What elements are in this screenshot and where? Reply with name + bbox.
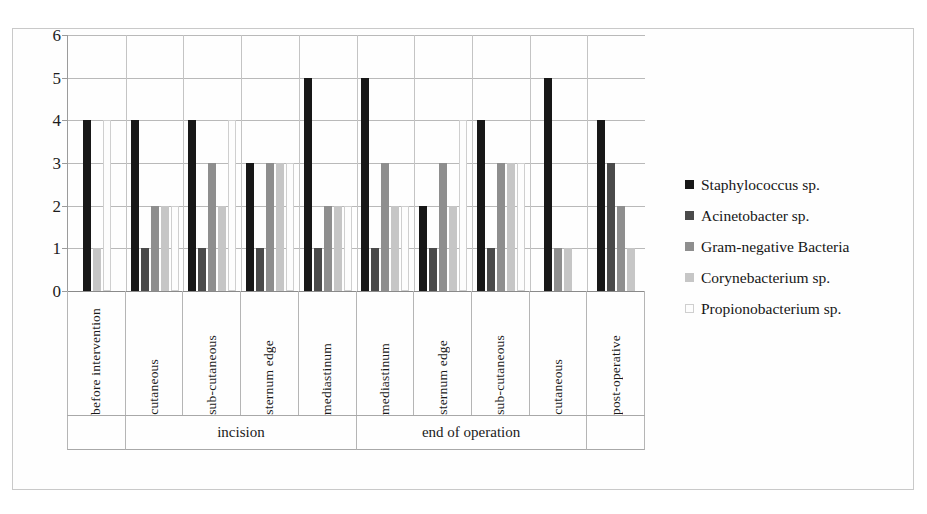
bar xyxy=(361,78,369,291)
bar xyxy=(266,163,274,291)
bar xyxy=(304,78,312,291)
legend-item: Corynebacterium sp. xyxy=(685,262,913,293)
bar xyxy=(477,120,485,291)
category-cell: sub-cutaneous xyxy=(182,291,240,415)
legend-swatch-icon xyxy=(685,273,694,282)
category-label: cutaneous xyxy=(550,356,566,415)
group-axis: incisionend of operation xyxy=(67,416,645,450)
group-label: end of operation xyxy=(422,424,520,441)
category-axis: before interventioncutaneoussub-cutaneou… xyxy=(67,291,645,416)
bar xyxy=(597,120,605,291)
legend: Staphylococcus sp.Acinetobacter sp.Gram-… xyxy=(685,169,913,324)
bar xyxy=(554,248,562,291)
bar xyxy=(218,206,226,291)
bar-group xyxy=(414,35,472,291)
bar xyxy=(334,206,342,291)
bar xyxy=(617,206,625,291)
category-cell: cutaneous xyxy=(125,291,183,415)
category-cell: sternum edge xyxy=(413,291,471,415)
legend-item: Propionobacterium sp. xyxy=(685,293,913,324)
bar xyxy=(276,163,284,291)
bar-group xyxy=(126,35,184,291)
bar xyxy=(627,248,635,291)
y-tick-label: 6 xyxy=(53,27,62,44)
category-label: mediastinum xyxy=(377,340,393,415)
bar xyxy=(208,163,216,291)
bar xyxy=(449,206,457,291)
bar xyxy=(198,248,206,291)
bar xyxy=(381,163,389,291)
legend-swatch-icon xyxy=(685,180,694,189)
category-label: sub-cutaneous xyxy=(204,332,220,415)
y-tick-label: 4 xyxy=(53,112,62,129)
bar xyxy=(371,248,379,291)
group-label-cell xyxy=(67,416,125,450)
plot-canvas xyxy=(67,35,645,291)
bar-group xyxy=(587,35,645,291)
bar xyxy=(314,248,322,291)
bar-group xyxy=(241,35,299,291)
bar xyxy=(439,163,447,291)
bar xyxy=(344,206,352,291)
legend-swatch-icon xyxy=(685,304,694,313)
category-label: before intervention xyxy=(88,305,104,415)
legend-label: Gram-negative Bacteria xyxy=(701,238,849,256)
category-label: sub-cutaneous xyxy=(492,332,508,415)
category-cell: sternum edge xyxy=(240,291,298,415)
bar xyxy=(228,120,236,291)
y-tick-label: 5 xyxy=(53,69,62,86)
group-label: incision xyxy=(217,424,265,441)
bar xyxy=(83,120,91,291)
bar xyxy=(459,120,467,291)
y-tick-label: 1 xyxy=(53,240,62,257)
bar-groups xyxy=(68,35,645,291)
legend-label: Staphylococcus sp. xyxy=(701,176,820,194)
category-cell: before intervention xyxy=(67,291,125,415)
category-cell: cutaneous xyxy=(529,291,587,415)
bar xyxy=(497,163,505,291)
legend-swatch-icon xyxy=(685,242,694,251)
bar xyxy=(487,248,495,291)
chart-frame: 0123456 before interventioncutaneoussub-… xyxy=(12,28,914,490)
category-label: post-operative xyxy=(608,332,624,415)
bar xyxy=(131,120,139,291)
category-cell: mediastinum xyxy=(356,291,414,415)
bar xyxy=(607,163,615,291)
group-label-cell xyxy=(586,416,645,450)
bar xyxy=(517,163,525,291)
bar xyxy=(246,163,254,291)
y-tick-label: 3 xyxy=(53,155,62,172)
bar xyxy=(188,120,196,291)
bar xyxy=(544,78,552,291)
bar xyxy=(161,206,169,291)
bar xyxy=(171,206,179,291)
category-cell: mediastinum xyxy=(298,291,356,415)
bar xyxy=(564,248,572,291)
group-label-cell: end of operation xyxy=(356,416,586,450)
category-label: mediastinum xyxy=(319,340,335,415)
category-label: cutaneous xyxy=(146,356,162,415)
category-cell: post-operative xyxy=(586,291,645,415)
legend-item: Gram-negative Bacteria xyxy=(685,231,913,262)
legend-item: Acinetobacter sp. xyxy=(685,200,913,231)
bar-group xyxy=(68,35,126,291)
category-label: sternum edge xyxy=(435,337,451,415)
legend-label: Corynebacterium sp. xyxy=(701,269,830,287)
bar-group xyxy=(472,35,530,291)
bar-group xyxy=(357,35,415,291)
legend-item: Staphylococcus sp. xyxy=(685,169,913,200)
bar xyxy=(429,248,437,291)
legend-swatch-icon xyxy=(685,211,694,220)
bar xyxy=(141,248,149,291)
y-tick-label: 0 xyxy=(53,283,62,300)
bar-group xyxy=(530,35,588,291)
bar xyxy=(419,206,427,291)
bar xyxy=(286,163,294,291)
legend-label: Acinetobacter sp. xyxy=(701,207,809,225)
bar xyxy=(401,206,409,291)
bar xyxy=(93,248,101,291)
bar xyxy=(103,120,111,291)
bar xyxy=(324,206,332,291)
y-tick-label: 2 xyxy=(53,197,62,214)
group-label-cell: incision xyxy=(125,416,355,450)
